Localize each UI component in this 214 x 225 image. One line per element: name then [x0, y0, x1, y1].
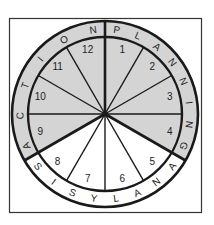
segment-number-9: 9: [38, 126, 44, 137]
cycle-wheel-diagram: 123456789101112PLANNINGANALYSISACTION: [0, 0, 214, 225]
segment-number-3: 3: [167, 91, 173, 102]
segment-number-1: 1: [120, 44, 126, 55]
segment-number-7: 7: [85, 173, 91, 184]
segment-number-6: 6: [120, 173, 126, 184]
segment-number-2: 2: [150, 61, 156, 72]
phase-label-letter: N: [89, 24, 98, 36]
segment-number-12: 12: [82, 44, 94, 55]
segment-number-4: 4: [167, 126, 173, 137]
center-hub: [103, 112, 108, 117]
segment-number-11: 11: [52, 61, 63, 72]
phase-label-letter: N: [183, 120, 195, 129]
phase-label-letter: C: [14, 112, 25, 119]
segment-number-10: 10: [35, 91, 47, 102]
segment-number-8: 8: [55, 156, 61, 167]
segment-number-5: 5: [150, 156, 156, 167]
